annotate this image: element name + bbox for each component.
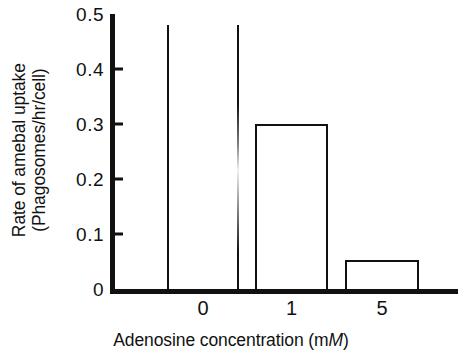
x-axis-title-italic: M: [329, 330, 343, 350]
y-axis-title-line-1: Rate of amebal uptake: [9, 63, 29, 237]
bar-edge-left: [167, 25, 169, 289]
y-axis-tick-mark: [115, 123, 123, 126]
y-axis-tick-mark: [115, 68, 123, 71]
bar-0: [167, 25, 239, 289]
bar-5: [345, 260, 419, 289]
y-axis-title: Rate of amebal uptake (Phagosomes/hr/cel…: [0, 0, 58, 300]
x-axis-tick-label: 1: [286, 298, 297, 318]
y-axis-tick-labels: 00.10.20.30.40.5: [58, 0, 108, 300]
y-axis-tick-label: 0.5: [76, 5, 104, 24]
y-axis-title-rotated: Rate of amebal uptake (Phagosomes/hr/cel…: [9, 63, 49, 237]
bar-edge-right: [237, 25, 239, 289]
y-axis-tick-mark: [115, 178, 123, 181]
x-axis-line: [110, 289, 458, 294]
y-axis-tick-label: 0: [93, 280, 104, 299]
x-axis-title-after: ): [343, 330, 349, 350]
y-axis-tick-label: 0.3: [76, 115, 104, 134]
x-axis-title: Adenosine concentration (mM): [0, 330, 462, 351]
y-axis-line: [110, 14, 115, 294]
y-axis-tick-label: 0.1: [76, 225, 104, 244]
x-axis-tick-label: 5: [376, 298, 387, 318]
y-axis-tick-label: 0.4: [76, 60, 104, 79]
x-axis-title-before: Adenosine concentration (m: [113, 330, 328, 350]
y-axis-title-line-2: (Phagosomes/hr/cell): [29, 63, 49, 237]
bar-1: [255, 124, 328, 289]
x-axis-tick-label: 0: [197, 298, 208, 318]
y-axis-tick-label: 0.2: [76, 170, 104, 189]
plot-area: [110, 14, 458, 294]
y-axis-tick-mark: [115, 233, 123, 236]
x-axis-tick-labels: 015: [110, 298, 458, 328]
chart-figure: Rate of amebal uptake (Phagosomes/hr/cel…: [0, 0, 462, 358]
